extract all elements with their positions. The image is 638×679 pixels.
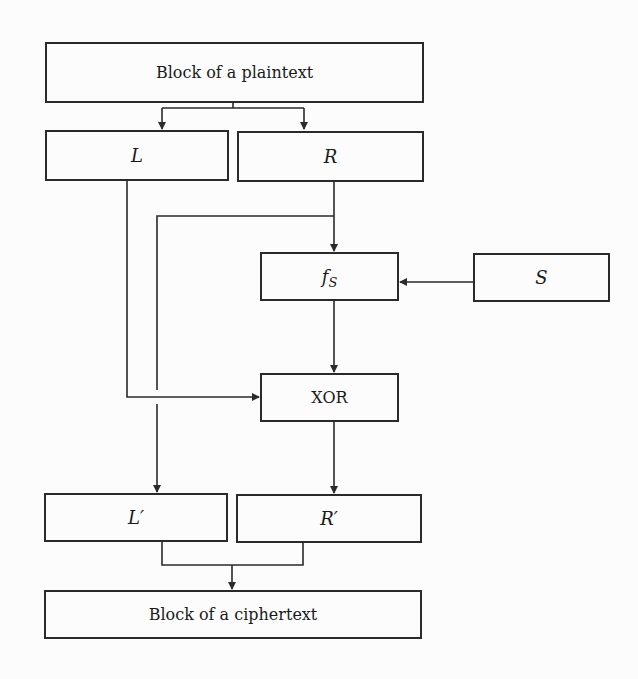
- right-half-label: R: [324, 146, 338, 167]
- right-out-label: R′: [320, 508, 338, 529]
- plaintext-block-box: Block of a plaintext: [45, 42, 424, 103]
- ciphertext-label: Block of a ciphertext: [149, 605, 318, 624]
- arrow-left-to-xor: [127, 180, 259, 397]
- round-function-box: fS: [260, 252, 399, 301]
- round-function-subscript: S: [328, 275, 337, 290]
- subkey-box: S: [473, 253, 610, 302]
- right-out-box: R′: [236, 494, 422, 543]
- plaintext-label: Block of a plaintext: [156, 63, 313, 82]
- xor-box: XOR: [260, 373, 399, 422]
- ciphertext-block-box: Block of a ciphertext: [44, 590, 422, 639]
- left-half-box: L: [45, 130, 229, 181]
- right-branch-line: [157, 216, 334, 390]
- left-out-box: L′: [44, 493, 228, 542]
- merge-connector: [162, 541, 303, 565]
- feistel-diagram: Block of a plaintext L R fS S XOR L′ R′ …: [0, 0, 638, 679]
- subkey-label: S: [535, 267, 547, 288]
- left-half-label: L: [131, 145, 143, 166]
- left-out-label: L′: [128, 507, 144, 528]
- right-half-box: R: [237, 131, 424, 182]
- xor-label: XOR: [311, 388, 347, 407]
